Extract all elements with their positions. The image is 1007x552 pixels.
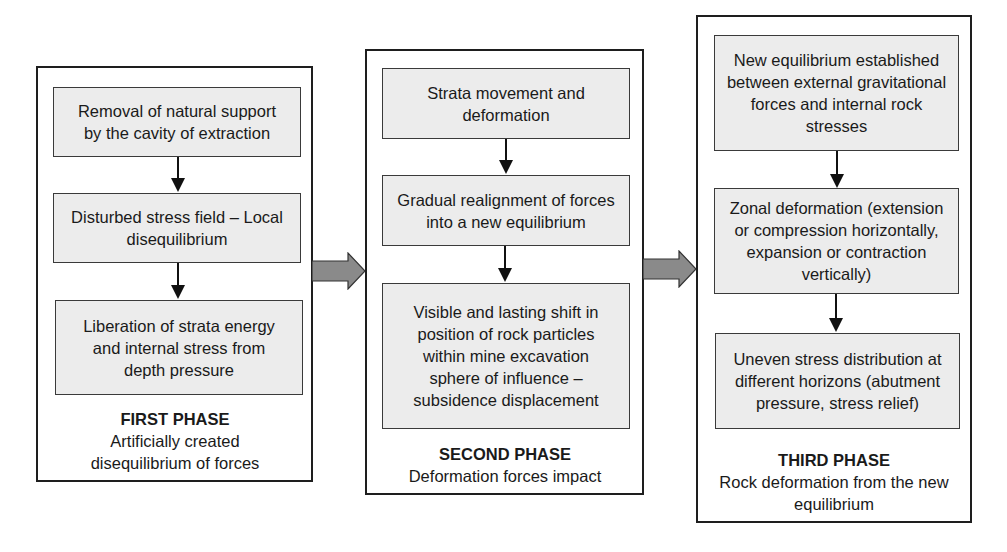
first-phase-subtitle: Artificially created disequilibrium of f…	[80, 430, 270, 474]
down-arrow-icon	[498, 268, 512, 282]
right-arrow-icon	[643, 250, 697, 288]
third-phase-title: THIRD PHASE	[699, 449, 969, 471]
second-phase-title: SECOND PHASE	[368, 443, 642, 465]
third-phase-step-3: Uneven stress distribution at different …	[715, 333, 960, 429]
right-arrow-icon	[312, 252, 366, 290]
down-arrow-icon	[499, 160, 513, 174]
first-phase-title: FIRST PHASE	[40, 408, 310, 430]
third-phase-subtitle: Rock deformation from the new equilibriu…	[705, 471, 963, 515]
second-phase-step-3: Visible and lasting shift in position of…	[382, 283, 630, 429]
third-phase-step-2: Zonal deformation (extension or compress…	[714, 188, 959, 294]
flow-arrow-line	[835, 294, 837, 320]
third-phase-step-1: New equilibrium established between exte…	[714, 35, 959, 151]
flow-arrow-line	[177, 263, 179, 287]
second-phase-subtitle: Deformation forces impact	[368, 465, 642, 487]
first-phase-step-2: Disturbed stress field – Local disequili…	[53, 193, 301, 263]
flow-arrow-line	[836, 151, 838, 176]
down-arrow-icon	[830, 174, 844, 188]
first-phase-step-3: Liberation of strata energy and internal…	[55, 300, 303, 395]
second-phase-step-1: Strata movement and deformation	[382, 68, 630, 139]
second-phase-step-2: Gradual realignment of forces into a new…	[382, 175, 630, 246]
flow-arrow-line	[504, 246, 506, 270]
down-arrow-icon	[171, 178, 185, 192]
down-arrow-icon	[829, 318, 843, 332]
first-phase-step-1: Removal of natural support by the cavity…	[53, 87, 301, 157]
down-arrow-icon	[171, 285, 185, 299]
